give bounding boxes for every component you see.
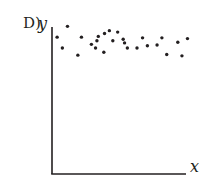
data-point: [126, 46, 129, 49]
data-point: [61, 46, 64, 49]
data-point: [94, 46, 97, 49]
data-point: [95, 39, 98, 42]
data-point: [66, 25, 69, 28]
data-point: [146, 44, 149, 47]
data-points: [55, 25, 189, 58]
data-point: [76, 53, 79, 56]
data-point: [123, 41, 126, 44]
data-point: [141, 36, 144, 39]
data-point: [135, 46, 138, 49]
scatter-plot: D) y x: [0, 0, 210, 179]
data-point: [155, 43, 158, 46]
y-axis-label: y: [37, 14, 48, 33]
data-point: [108, 29, 111, 32]
x-axis-label: x: [190, 157, 199, 176]
data-point: [103, 32, 106, 35]
data-point: [97, 35, 100, 38]
data-point: [80, 35, 83, 38]
data-point: [102, 51, 105, 54]
data-point: [165, 53, 168, 56]
data-point: [111, 39, 114, 42]
data-point: [180, 54, 183, 57]
data-point: [121, 38, 124, 41]
data-point: [186, 37, 189, 40]
data-point: [160, 36, 163, 39]
data-point: [176, 40, 179, 43]
data-point: [90, 43, 93, 46]
data-point: [55, 35, 58, 38]
data-point: [116, 30, 119, 33]
